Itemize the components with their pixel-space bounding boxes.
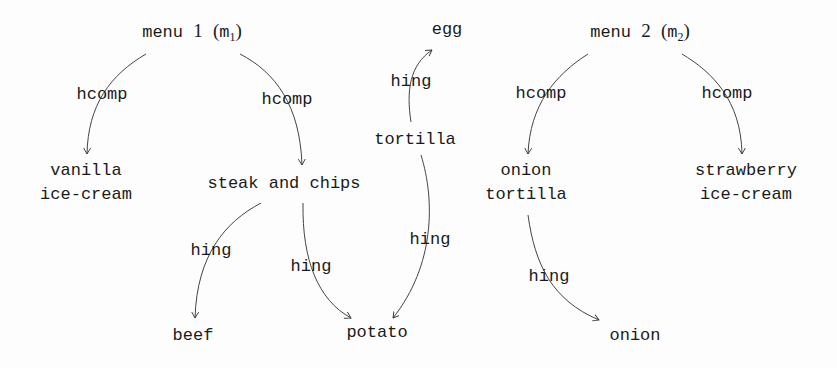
edge-label-hing: hing: [391, 71, 432, 93]
vanilla-line1: vanilla: [40, 159, 132, 183]
node-onion-tortilla: onion tortilla: [485, 159, 567, 207]
node-egg: egg: [432, 19, 463, 41]
menu1-label: menu: [142, 23, 183, 42]
node-potato: potato: [346, 322, 407, 344]
node-steak-and-chips: steak and chips: [207, 173, 360, 195]
edge-label-hcomp: hcomp: [261, 89, 312, 111]
edge-label-hcomp: hcomp: [701, 83, 752, 105]
ontology-diagram: menu 1 (m1) menu 2 (m2) vanilla ice-crea…: [0, 0, 837, 368]
menu2-label: menu: [590, 23, 631, 42]
node-onion: onion: [609, 325, 660, 347]
strawberry-line2: ice-cream: [695, 183, 797, 207]
edge-label-hcomp: hcomp: [515, 83, 566, 105]
node-beef: beef: [173, 325, 214, 347]
edge-label-hing: hing: [291, 256, 332, 278]
edge-label-hing: hing: [529, 266, 570, 288]
onion-tortilla-line1: onion: [485, 159, 567, 183]
menu2-number: 2: [641, 20, 651, 41]
node-strawberry-ice-cream: strawberry ice-cream: [695, 159, 797, 207]
menu1-number: 1: [193, 20, 203, 41]
edge-label-hing: hing: [191, 240, 232, 262]
edge-label-hing: hing: [410, 229, 451, 251]
edge-label-hcomp: hcomp: [76, 84, 127, 106]
menu1-abbr: m: [219, 23, 229, 42]
vanilla-line2: ice-cream: [40, 183, 132, 207]
node-tortilla: tortilla: [374, 129, 456, 151]
menu2-abbr: m: [667, 23, 677, 42]
node-menu-1: menu 1 (m1): [142, 20, 242, 48]
node-vanilla-ice-cream: vanilla ice-cream: [40, 159, 132, 207]
onion-tortilla-line2: tortilla: [485, 183, 567, 207]
node-menu-2: menu 2 (m2): [590, 20, 690, 48]
strawberry-line1: strawberry: [695, 159, 797, 183]
